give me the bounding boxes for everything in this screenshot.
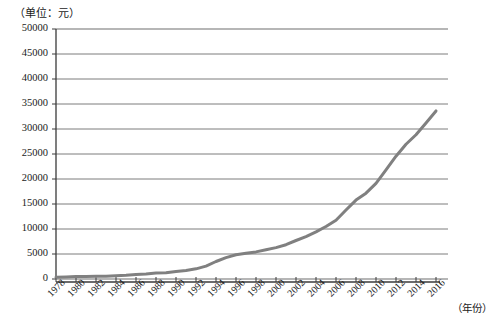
y-tick-label: 20000 [2,172,48,183]
y-tick-label: 50000 [2,22,48,33]
y-tick-label: 10000 [2,222,48,233]
data-series-group [56,111,436,277]
y-tick-label: 30000 [2,122,48,133]
y-tick-label: 25000 [2,147,48,158]
y-tick-label: 5000 [2,247,48,258]
chart-container: （单位：元） 050001000015000200002500030000350… [0,0,495,329]
y-tick-label: 35000 [2,97,48,108]
axes-group [56,29,440,282]
y-tick-label: 40000 [2,72,48,83]
y-tick-label: 15000 [2,197,48,208]
y-tick-label: 45000 [2,47,48,58]
y-tick-label: 0 [2,272,48,283]
gridlines-group [56,29,448,279]
x-axis-title: （年份） [452,300,492,315]
